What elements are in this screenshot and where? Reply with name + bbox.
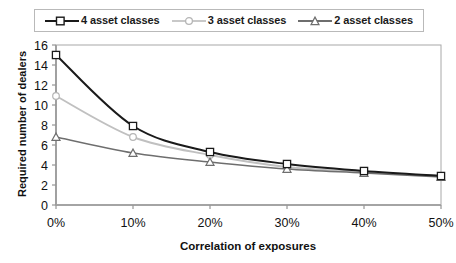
legend-label-4-asset-classes: 4 asset classes [81,15,160,26]
plot-frame [56,45,441,205]
x-tick-label: 40% [351,216,376,230]
legend-item-4-asset-classes: 4 asset classes [45,15,160,27]
chart-legend: 4 asset classes 3 asset classes 2 asset … [34,9,424,32]
y-tick-label: 8 [41,119,48,133]
y-tick-label: 12 [34,79,48,93]
series-line [56,55,441,176]
plot-area: 0246810121416 0%10%20%30%40%50% [0,40,456,240]
y-tick-label: 16 [34,40,48,53]
y-axis-tick-labels: 0246810121416 [34,40,48,213]
legend-label-2-asset-classes: 2 asset classes [334,15,413,26]
legend-marker-circle-icon [172,15,206,27]
series-layer [52,51,445,180]
data-point-marker [206,148,213,155]
y-tick-label: 14 [34,59,48,73]
legend-item-3-asset-classes: 3 asset classes [172,15,287,27]
series-line [56,96,441,176]
legend-marker-triangle-icon [298,15,332,27]
y-axis-tick-marks [52,45,56,205]
x-axis-tick-marks [56,205,441,209]
legend-label-3-asset-classes: 3 asset classes [208,15,287,26]
y-tick-label: 6 [41,139,48,153]
data-point-marker [53,93,60,100]
legend-marker-square-icon [45,15,79,27]
x-tick-label: 10% [120,216,145,230]
y-tick-label: 2 [41,179,48,193]
data-point-marker [52,51,59,58]
x-tick-label: 50% [428,216,453,230]
data-point-marker [360,167,367,174]
data-point-marker [52,133,60,140]
legend-item-2-asset-classes: 2 asset classes [298,15,413,27]
x-axis-title: Correlation of exposures [56,240,440,252]
y-tick-label: 4 [41,159,48,173]
series-4-asset-classes [52,51,444,179]
y-tick-label: 0 [41,199,48,213]
x-tick-label: 30% [274,216,299,230]
series-line [56,137,441,177]
y-tick-label: 10 [34,99,48,113]
data-point-marker [130,134,137,141]
data-point-marker [283,160,290,167]
data-point-marker [129,122,136,129]
x-axis-tick-labels: 0%10%20%30%40%50% [47,216,454,230]
data-point-marker [437,172,444,179]
x-tick-label: 0% [47,216,65,230]
chart-figure: 4 asset classes 3 asset classes 2 asset … [0,0,456,263]
x-tick-label: 20% [197,216,222,230]
